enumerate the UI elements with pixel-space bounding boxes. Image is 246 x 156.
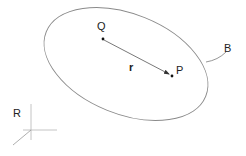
vector-r-arrow [104, 40, 169, 74]
point-p-label: P [176, 64, 183, 76]
body-b-ellipse [28, 0, 225, 143]
diagram-svg: B r Q P R [0, 0, 246, 156]
body-b-leader-line [206, 52, 226, 62]
diagram-canvas: B r Q P R [0, 0, 246, 156]
reference-frame-label: R [13, 107, 21, 119]
point-q-dot [102, 38, 105, 41]
frame-axis-diagonal [13, 130, 31, 145]
point-p-dot [171, 75, 174, 78]
body-b-label: B [224, 42, 231, 54]
point-q-label: Q [97, 20, 106, 32]
vector-r-label: r [129, 61, 134, 73]
